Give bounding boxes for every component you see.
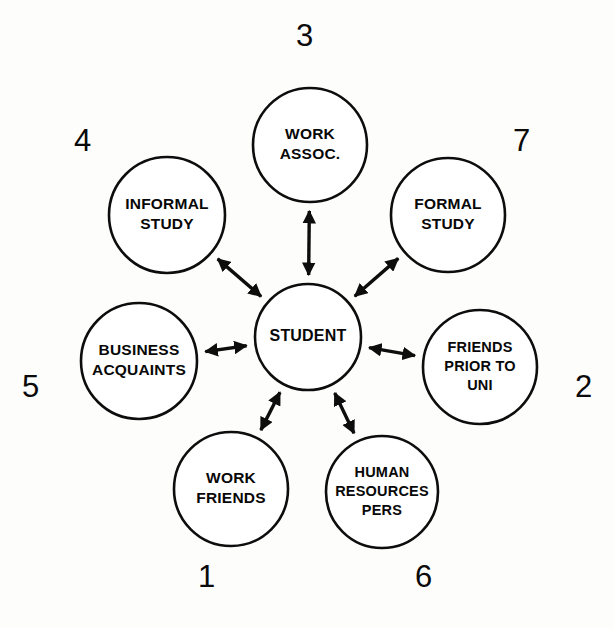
node-label-informal-study: STUDY bbox=[140, 215, 194, 232]
index-number-human-resources-pers: 6 bbox=[415, 561, 432, 592]
connector-student-informal-study bbox=[218, 259, 261, 297]
node-label-work-friends: FRIENDS bbox=[196, 489, 265, 506]
node-label-informal-study: INFORMAL bbox=[125, 195, 208, 212]
node-label-formal-study: FORMAL bbox=[414, 195, 482, 212]
node-human-resources-pers: HUMANRESOURCESPERS bbox=[326, 436, 438, 548]
node-label-work-assoc: ASSOC. bbox=[280, 145, 341, 162]
node-label-work-friends: WORK bbox=[206, 469, 256, 486]
network-diagram: STUDENTWORKASSOC.INFORMALSTUDYFORMALSTUD… bbox=[0, 0, 614, 628]
node-formal-study: FORMALSTUDY bbox=[391, 158, 505, 272]
node-label-human-resources-pers: RESOURCES bbox=[335, 483, 429, 499]
connector-student-business-acquaints bbox=[205, 346, 246, 352]
node-label-work-assoc: WORK bbox=[285, 125, 335, 142]
node-layer: STUDENTWORKASSOC.INFORMALSTUDYFORMALSTUD… bbox=[81, 88, 537, 548]
node-label-human-resources-pers: PERS bbox=[362, 502, 402, 518]
index-number-business-acquaints: 5 bbox=[22, 371, 39, 402]
node-label-human-resources-pers: HUMAN bbox=[355, 464, 410, 480]
connector-student-work-assoc bbox=[309, 211, 310, 275]
node-label-formal-study: STUDY bbox=[421, 215, 475, 232]
connector-student-work-friends bbox=[261, 392, 280, 430]
connector-student-formal-study bbox=[355, 258, 399, 296]
connector-student-human-resources-pers bbox=[335, 393, 354, 433]
node-label-friends-prior-to-uni: UNI bbox=[467, 377, 493, 393]
node-label-student: STUDENT bbox=[270, 327, 347, 344]
node-label-friends-prior-to-uni: PRIOR TO bbox=[444, 358, 515, 374]
node-friends-prior-to-uni: FRIENDSPRIOR TOUNI bbox=[423, 310, 537, 424]
node-work-friends: WORKFRIENDS bbox=[174, 432, 288, 546]
node-work-assoc: WORKASSOC. bbox=[253, 88, 367, 202]
node-business-acquaints: BUSINESSACQUAINTS bbox=[81, 303, 197, 419]
index-number-formal-study: 7 bbox=[513, 125, 530, 156]
node-label-friends-prior-to-uni: FRIENDS bbox=[447, 339, 512, 355]
node-label-business-acquaints: BUSINESS bbox=[99, 341, 180, 358]
index-number-friends-prior-to-uni: 2 bbox=[575, 371, 592, 402]
node-informal-study: INFORMALSTUDY bbox=[109, 157, 225, 273]
index-number-informal-study: 4 bbox=[74, 125, 91, 156]
connector-student-friends-prior-to-uni bbox=[369, 348, 415, 356]
node-label-business-acquaints: ACQUAINTS bbox=[92, 361, 186, 378]
diagram-canvas: STUDENTWORKASSOC.INFORMALSTUDYFORMALSTUD… bbox=[0, 0, 614, 628]
node-student: STUDENT bbox=[255, 284, 361, 390]
index-number-work-assoc: 3 bbox=[296, 20, 313, 51]
index-number-work-friends: 1 bbox=[198, 561, 215, 592]
